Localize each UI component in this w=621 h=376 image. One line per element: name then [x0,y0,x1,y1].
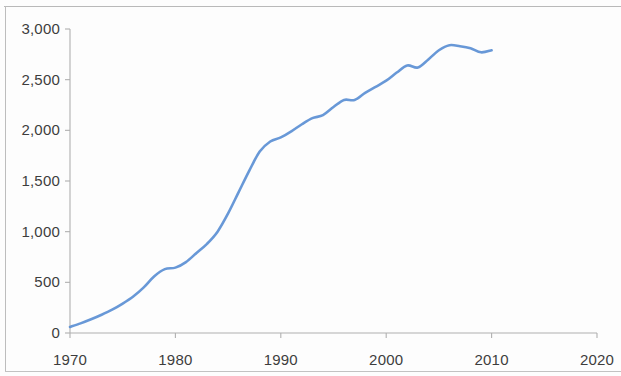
axis-lines [70,29,597,333]
x-axis-tick-label: 2020 [557,351,621,368]
line-chart: 05001,0001,5002,0002,5003,000 1970198019… [0,0,621,376]
y-axis-tick-label: 2,000 [0,121,60,138]
data-line-1 [70,45,492,327]
x-axis-tick-label: 2000 [346,351,426,368]
y-axis-tick-label: 1,000 [0,223,60,240]
tick-marks [65,29,597,338]
plot-area [0,0,621,376]
y-axis-tick-label: 500 [0,273,60,290]
y-axis-tick-label: 2,500 [0,71,60,88]
y-axis-tick-label: 3,000 [0,20,60,37]
y-axis-tick-label: 0 [0,324,60,341]
x-axis-tick-label: 2010 [452,351,532,368]
x-axis-tick-label: 1990 [241,351,321,368]
x-axis-tick-label: 1970 [30,351,110,368]
x-axis-tick-label: 1980 [135,351,215,368]
data-series-group [70,45,492,327]
y-axis-tick-label: 1,500 [0,172,60,189]
